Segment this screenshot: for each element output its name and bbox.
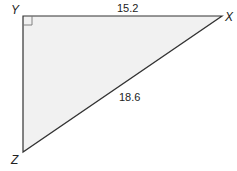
triangle-xyz	[23, 16, 222, 152]
triangle-diagram: Y X Z 15.2 18.6	[0, 0, 237, 171]
vertex-label-x: X	[224, 10, 234, 24]
side-length-yx: 15.2	[117, 2, 138, 14]
vertex-label-z: Z	[10, 153, 19, 167]
side-length-xz: 18.6	[119, 91, 140, 103]
vertex-label-y: Y	[11, 3, 20, 17]
